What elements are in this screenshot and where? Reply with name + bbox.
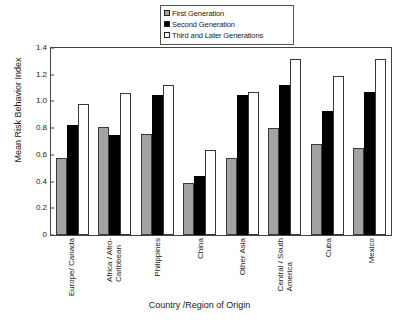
- x-axis-category-label-line: Europe/ Canada: [67, 238, 76, 296]
- bar: [152, 95, 163, 235]
- bar: [194, 176, 205, 235]
- legend-swatch-icon-third-generation: [164, 32, 170, 38]
- x-axis-category-label-line: Cuba: [323, 238, 332, 257]
- bar-groups: [51, 48, 391, 235]
- x-axis-category-label: China: [195, 238, 204, 259]
- x-axis-category-label-line: Central / South: [276, 238, 285, 291]
- x-axis-category-label: Central / SouthAmerica: [276, 238, 294, 291]
- bar: [268, 128, 279, 235]
- x-axis-category-label: Cuba: [323, 238, 332, 257]
- bar: [375, 59, 386, 235]
- y-axis-tick-label: 0.4: [21, 178, 51, 186]
- x-axis-category-label-line: America: [285, 238, 294, 291]
- bar: [141, 134, 152, 236]
- legend-label-third-generation: Third and Later Generations: [172, 31, 263, 40]
- y-axis-tick-label: 1.4: [21, 44, 51, 52]
- y-axis-tick-label: 1.0: [21, 97, 51, 105]
- bar-group: [94, 48, 137, 235]
- legend-item-third-generation: Third and Later Generations: [164, 30, 290, 40]
- bar: [279, 85, 290, 235]
- y-axis-tick-label: 0.8: [21, 124, 51, 132]
- x-axis-category-label-line: Caribbean: [114, 238, 123, 282]
- bar: [248, 92, 259, 235]
- x-axis-category-label: Philippines: [152, 238, 161, 277]
- x-axis-category-label: Other Asia: [238, 238, 247, 275]
- bar: [120, 93, 131, 235]
- x-axis-title: Country /Region of Origin: [0, 300, 409, 310]
- bar: [353, 148, 364, 235]
- bar: [67, 125, 78, 235]
- bar: [98, 127, 109, 235]
- bar: [322, 111, 333, 235]
- bar: [311, 144, 322, 235]
- x-axis-title-text: Country /Region of Origin: [149, 300, 251, 310]
- bar: [109, 135, 120, 235]
- x-axis-category-label: Europe/ Canada: [67, 238, 76, 296]
- y-axis-title: Mean Risk Behavior Index: [13, 30, 23, 190]
- x-axis-category-label: Africa / Afro-Caribbean: [105, 238, 123, 282]
- bar-group: [264, 48, 307, 235]
- bar-group: [221, 48, 264, 235]
- bar: [183, 183, 194, 235]
- x-axis-category-label-line: Other Asia: [238, 238, 247, 275]
- bar-group: [306, 48, 349, 235]
- plot-area: 1.41.21.00.80.60.40.20: [50, 47, 392, 236]
- bar-group: [349, 48, 392, 235]
- legend-label-first-generation: First Generation: [172, 9, 224, 18]
- x-axis-category-label-line: China: [195, 238, 204, 259]
- legend-item-first-generation: First Generation: [164, 8, 290, 18]
- y-axis-tick-label: 0.2: [21, 204, 51, 212]
- bar-group: [136, 48, 179, 235]
- bar: [237, 95, 248, 235]
- y-axis-tick-label: 0.6: [21, 151, 51, 159]
- bar: [78, 104, 89, 235]
- legend-swatch-icon-second-generation: [164, 21, 170, 27]
- legend-label-second-generation: Second Generation: [172, 20, 235, 29]
- bar: [163, 85, 174, 235]
- bar: [226, 158, 237, 235]
- bar: [333, 76, 344, 235]
- x-axis-category-label-line: Africa / Afro-: [105, 238, 114, 282]
- y-axis-tick-label: 0: [21, 231, 51, 239]
- x-axis-category-label: Mexico: [366, 238, 375, 263]
- bar-group: [51, 48, 94, 235]
- bar: [364, 92, 375, 235]
- legend-item-second-generation: Second Generation: [164, 19, 290, 29]
- legend-swatch-icon-first-generation: [164, 10, 170, 16]
- bar-group: [179, 48, 222, 235]
- chart-legend: First Generation Second Generation Third…: [160, 5, 294, 45]
- y-axis-tick-label: 1.2: [21, 71, 51, 79]
- bar: [205, 150, 216, 235]
- x-axis-category-label-line: Mexico: [366, 238, 375, 263]
- bar: [56, 158, 67, 235]
- x-axis-category-label-line: Philippines: [152, 238, 161, 277]
- bar: [290, 59, 301, 235]
